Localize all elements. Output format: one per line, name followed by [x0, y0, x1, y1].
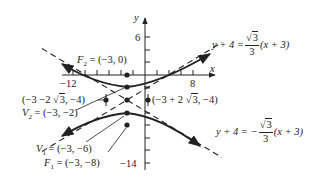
point-V2 [124, 84, 129, 89]
x-tick-label-8: 8 [190, 79, 195, 90]
label-F1: F1 = (−3, −8) [44, 158, 100, 169]
label-right-point: (−3 + 2 √3, −4) [152, 95, 218, 106]
point-left [103, 97, 108, 102]
point-V1 [124, 110, 129, 115]
y-tick-label-6: 6 [135, 33, 140, 44]
point-F1 [124, 122, 129, 127]
equation-asymptote-positive: y + 4 = √33 (x + 3) [212, 33, 289, 57]
point-F2 [124, 72, 129, 77]
label-V2: V2 = (−3, −2) [22, 108, 78, 119]
label-F2: F2 = (−3, 0) [77, 55, 127, 66]
point-center [124, 97, 129, 102]
x-axis-label: x [210, 64, 215, 75]
lower-branch [62, 113, 200, 146]
points [103, 72, 150, 127]
equation-asymptote-negative: y + 4 = − √33 (x + 3) [216, 120, 303, 144]
rectangle-marks [106, 87, 150, 106]
x-tick-label-neg12: −12 [60, 79, 76, 90]
point-right [145, 97, 150, 102]
label-V1: V1 = (−3, −6) [36, 144, 92, 155]
y-axis-label: y [134, 13, 139, 24]
y-tick-label-neg14: −14 [120, 159, 136, 170]
label-left-point: (−3 −2 √3, −4) [22, 95, 85, 106]
